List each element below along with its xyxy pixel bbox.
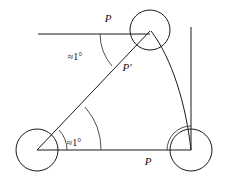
diagram-canvas: P P′ P ≈1° ≈1° <box>0 0 226 185</box>
label-angle-bottom-left: ≈1° <box>67 137 82 148</box>
top-circle <box>130 10 170 50</box>
diagonal-line <box>37 31 150 150</box>
angle-arc-top <box>100 34 112 66</box>
label-point-p-prime: P′ <box>121 61 132 73</box>
label-angle-top: ≈1° <box>68 51 83 62</box>
label-point-p-top: P <box>104 12 112 24</box>
figure-container: P P′ P ≈1° ≈1° <box>0 0 226 185</box>
angle-arc-bottom-left-outer <box>85 107 101 150</box>
label-point-p-bottom: P <box>144 155 152 167</box>
